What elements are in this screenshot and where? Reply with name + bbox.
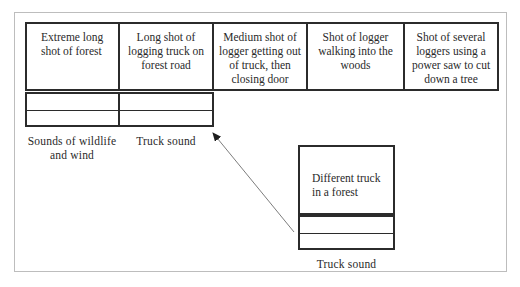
- audio-lane-divider: [300, 233, 393, 234]
- shot-box-logging-truck-road: Long shot of logging truck on forest roa…: [118, 22, 214, 91]
- audio-track-wildlife-wind: [25, 92, 120, 127]
- audio-track-truck-sound: [118, 92, 214, 127]
- shot-box-extreme-long-forest: Extreme long shot of forest: [25, 22, 120, 91]
- audio-caption-wildlife-wind: Sounds of wildlife and wind: [22, 134, 122, 162]
- shot-box-logger-exits-truck: Medium shot of logger getting out of tru…: [212, 22, 308, 91]
- shot-text: Extreme long shot of forest: [41, 31, 103, 57]
- shot-box-logger-walking-woods: Shot of logger walking into the woods: [306, 22, 405, 91]
- audio-lane-divider: [27, 110, 118, 111]
- audio-caption-truck-sound: Truck sound: [118, 134, 214, 148]
- alternate-audio-caption: Truck sound: [298, 257, 395, 271]
- shot-text: Shot of logger walking into the woods: [318, 31, 393, 71]
- shot-text: Different truck in a forest: [312, 172, 380, 198]
- alternate-shot-box: Different truck in a forest: [298, 145, 395, 215]
- alternate-audio-track: [298, 215, 395, 250]
- shot-text: Medium shot of logger getting out of tru…: [219, 31, 301, 85]
- shot-text: Shot of several loggers using a power sa…: [412, 31, 490, 85]
- audio-lane-divider: [120, 110, 212, 111]
- shot-box-loggers-power-saw: Shot of several loggers using a power sa…: [403, 22, 499, 91]
- shot-text: Long shot of logging truck on forest roa…: [128, 31, 204, 71]
